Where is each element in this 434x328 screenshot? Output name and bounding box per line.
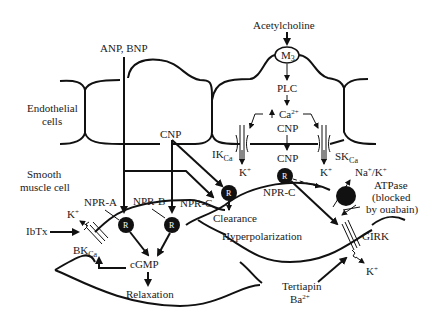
ba-label: Ba bbox=[290, 293, 302, 305]
npra-to-cgmp-arrow bbox=[130, 232, 148, 255]
ca-to-sk-arrow bbox=[303, 114, 318, 128]
svg-text:R: R bbox=[123, 221, 129, 230]
hyperpolarization-label: Hyperpolarization bbox=[222, 230, 303, 242]
k-girk-label: K bbox=[366, 265, 374, 277]
svg-text:R: R bbox=[226, 189, 232, 198]
npr-c-left-label: NPR-C bbox=[180, 197, 212, 209]
k-ik-label: K bbox=[239, 166, 247, 178]
cnp-endothelial-label: CNP bbox=[277, 122, 298, 134]
cnp-to-nprc-arrow-1 bbox=[172, 140, 222, 186]
bk-label: BK bbox=[73, 244, 88, 256]
m3-label: M bbox=[281, 49, 291, 61]
nprc-to-girk-arrow bbox=[291, 181, 337, 224]
svg-text:SKCa: SKCa bbox=[335, 150, 358, 165]
svg-text:Ba2+: Ba2+ bbox=[290, 293, 310, 305]
na-k-label: Na bbox=[355, 166, 368, 178]
relaxation-label: Relaxation bbox=[126, 288, 174, 300]
tertiapin-arrow bbox=[318, 258, 346, 282]
acetylcholine-label: Acetylcholine bbox=[253, 19, 315, 31]
npr-b-label: NPR-B bbox=[133, 195, 165, 207]
sk-channel bbox=[318, 125, 330, 164]
nprb-to-cgmp-arrow bbox=[158, 233, 170, 255]
k-bk-label: K bbox=[67, 208, 75, 220]
svg-text:Na+/K+: Na+/K+ bbox=[355, 166, 387, 178]
ca-to-ik-arrow bbox=[250, 114, 263, 128]
endothelial-label-1: Endothelial bbox=[27, 102, 78, 114]
svg-text:K+: K+ bbox=[239, 166, 251, 178]
ca-label: Ca bbox=[279, 108, 291, 120]
anp-bnp-label: ANP, BNP bbox=[100, 42, 148, 54]
smooth-muscle-label-2: muscle cell bbox=[20, 181, 70, 193]
clearance-label: Clearance bbox=[213, 212, 257, 224]
ibtx-label: IbTx bbox=[26, 225, 48, 237]
cnp-left-label: CNP bbox=[160, 128, 181, 140]
signaling-diagram: M3 Acetylcholine PLC Ca2+ CNP CNP IKCa K… bbox=[0, 0, 434, 328]
plc-label: PLC bbox=[277, 82, 297, 94]
npr-b-pointer bbox=[152, 209, 165, 218]
na-k-atpase-pump bbox=[336, 186, 356, 206]
svg-text:R: R bbox=[169, 221, 175, 230]
npr-c-right-label: NPR-C bbox=[263, 186, 295, 198]
ik-label: IK bbox=[212, 148, 224, 160]
smooth-muscle-label-1: Smooth bbox=[27, 168, 62, 180]
svg-text:K+: K+ bbox=[320, 166, 332, 178]
npr-a-label: NPR-A bbox=[84, 196, 117, 208]
endothelial-cell-outlines bbox=[60, 55, 376, 144]
cnp-right-label: CNP bbox=[277, 152, 298, 164]
tertiapin-label: Tertiapin bbox=[282, 280, 322, 292]
svg-text:K+: K+ bbox=[366, 265, 378, 277]
svg-text:Ca2+: Ca2+ bbox=[279, 108, 299, 120]
cgmp-to-bk-arrow bbox=[99, 258, 126, 268]
svg-text:BKCa: BKCa bbox=[73, 244, 98, 259]
endothelial-label-2: cells bbox=[42, 115, 62, 127]
ouabain-label: by ouabain) bbox=[366, 203, 419, 216]
k-sk-label: K bbox=[320, 166, 328, 178]
sk-label: SK bbox=[335, 150, 349, 162]
svg-text:K+: K+ bbox=[67, 208, 79, 220]
svg-text:R: R bbox=[282, 172, 288, 181]
ik-channel bbox=[236, 125, 248, 164]
atpase-label: ATPase bbox=[374, 179, 408, 191]
girk-label: GIRK bbox=[362, 230, 389, 242]
svg-text:IKCa: IKCa bbox=[212, 148, 233, 163]
cnp-to-nprc-arrow-2 bbox=[124, 171, 213, 197]
cgmp-label: cGMP bbox=[130, 258, 159, 270]
